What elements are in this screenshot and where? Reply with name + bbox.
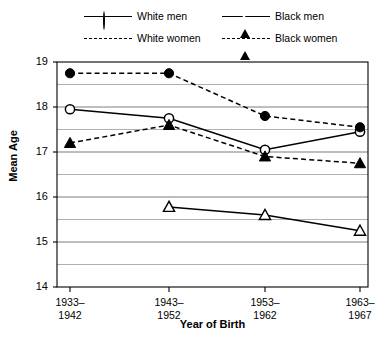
y-tick-label: 17 (28, 145, 48, 157)
data-point-black-women (354, 158, 365, 168)
data-point-white-men (65, 105, 74, 114)
y-tick-label: 16 (28, 190, 48, 202)
x-tick-label: 1953–1962 (230, 296, 300, 321)
x-tick-label: 1963–1967 (325, 296, 392, 321)
plot-area: Mean Age Year of Birth 1918171615141933–… (0, 0, 392, 344)
data-point-white-women (355, 123, 364, 132)
data-point-white-women (260, 111, 269, 120)
y-axis-title: Mean Age (7, 121, 19, 191)
data-point-black-men (163, 201, 174, 211)
data-point-white-women (164, 69, 173, 78)
chart-figure: White men White women Black men Black wo… (0, 0, 392, 344)
y-tick-label: 14 (28, 280, 48, 292)
y-tick-label: 19 (28, 55, 48, 67)
x-tick-label: 1943–1952 (134, 296, 204, 321)
data-point-white-women (65, 69, 74, 78)
plot-canvas (0, 0, 392, 344)
x-tick-label: 1933–1942 (35, 296, 105, 321)
y-tick-label: 18 (28, 100, 48, 112)
y-tick-label: 15 (28, 235, 48, 247)
